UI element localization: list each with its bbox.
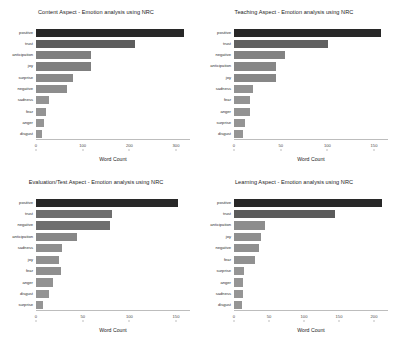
category-label: anger <box>23 281 33 285</box>
bar <box>36 199 178 207</box>
x-axis-line <box>234 310 388 311</box>
x-tick-label: 150 <box>371 143 378 148</box>
bar <box>36 244 62 252</box>
category-label: trust <box>25 212 33 216</box>
x-tick-mark <box>339 320 340 322</box>
bar <box>234 108 250 116</box>
category-label: negative <box>216 53 231 57</box>
bar <box>36 301 43 309</box>
bar <box>36 130 42 138</box>
plot-area: positivetrustnegativeanticipationjoysadn… <box>234 27 388 140</box>
x-tick-label: 50 <box>267 314 272 319</box>
category-label: joy <box>226 76 231 80</box>
x-tick-mark <box>234 149 235 151</box>
category-label: fear <box>26 269 33 273</box>
chart-title: Content Aspect - Emotion analysis using … <box>0 9 192 15</box>
x-tick-label: 0 <box>233 314 235 319</box>
bar <box>234 244 259 252</box>
bar-row: positive <box>234 197 388 208</box>
chart-title: Evaluation/Test Aspect - Emotion analysi… <box>0 179 192 185</box>
bar-series: positivetrustanticipationjoynegativefear… <box>234 197 388 311</box>
category-label: joy <box>28 64 33 68</box>
chart-title: Teaching Aspect - Emotion analysis using… <box>198 9 390 15</box>
bar <box>234 85 253 93</box>
x-tick-label: 150 <box>336 314 343 319</box>
bar-row: negative <box>234 50 388 61</box>
bar <box>36 278 53 286</box>
category-label: joy <box>226 235 231 239</box>
bar-row: sadness <box>36 95 190 106</box>
category-label: fear <box>224 258 231 262</box>
bar-row: surprise <box>36 72 190 83</box>
category-label: anticipation <box>12 235 33 239</box>
x-axis-line <box>234 139 388 140</box>
bar-row: positive <box>234 27 388 38</box>
bar <box>36 233 77 241</box>
bar <box>234 62 276 70</box>
x-tick-mark <box>82 320 83 322</box>
bar <box>36 85 67 93</box>
bar-row: surprise <box>234 117 388 128</box>
x-axis-label: Word Count <box>36 327 190 333</box>
bar <box>234 29 381 37</box>
category-label: surprise <box>18 76 33 80</box>
bar-row: anticipation <box>234 61 388 72</box>
bar <box>234 51 285 59</box>
category-label: surprise <box>18 303 33 307</box>
bar-series: positivetrustanticipationjoysurprisenega… <box>36 27 190 140</box>
category-label: positive <box>19 201 33 205</box>
bar-row: fear <box>36 265 190 276</box>
bar-row: anticipation <box>234 220 388 231</box>
bar-row: trust <box>234 38 388 49</box>
bar-row: joy <box>36 254 190 265</box>
bar-row: joy <box>234 231 388 242</box>
bar <box>36 29 184 37</box>
bar-row: trust <box>36 208 190 219</box>
bar-row: trust <box>36 38 190 49</box>
bar-row: negative <box>36 220 190 231</box>
x-tick-mark <box>269 320 270 322</box>
bar <box>234 256 255 264</box>
x-tick-mark <box>129 149 130 151</box>
x-tick-mark <box>36 320 37 322</box>
chart-title: Learning Aspect - Emotion analysis using… <box>198 179 390 185</box>
x-tick-mark <box>374 149 375 151</box>
x-tick-label: 0 <box>35 143 37 148</box>
chart-panel-content-aspect: Content Aspect - Emotion analysis using … <box>0 0 198 170</box>
plot-area: positivetrustanticipationjoysurprisenega… <box>36 27 190 140</box>
category-label: disgust <box>20 132 33 136</box>
x-tick-mark <box>176 320 177 322</box>
category-label: surprise <box>216 269 231 273</box>
bar-row: fear <box>234 254 388 265</box>
category-label: trust <box>25 42 33 46</box>
category-label: sadness <box>18 246 33 250</box>
bar-row: fear <box>36 106 190 117</box>
bar-row: anger <box>234 277 388 288</box>
bar <box>234 199 382 207</box>
x-tick-label: 0 <box>35 314 37 319</box>
bar-row: anticipation <box>36 231 190 242</box>
bar <box>36 96 49 104</box>
x-tick-mark <box>234 320 235 322</box>
x-tick-label: 200 <box>371 314 378 319</box>
category-label: anger <box>23 121 33 125</box>
bar <box>36 221 110 229</box>
bar-row: fear <box>234 95 388 106</box>
category-label: positive <box>217 31 231 35</box>
x-tick-label: 100 <box>79 143 86 148</box>
bar <box>234 210 335 218</box>
plot-area: positivetrustnegativeanticipationsadness… <box>36 197 190 311</box>
category-label: disgust <box>218 303 231 307</box>
x-tick-label: 300 <box>173 143 180 148</box>
category-label: anticipation <box>12 53 33 57</box>
category-label: anger <box>221 281 231 285</box>
bar-row: joy <box>36 61 190 72</box>
bar <box>36 119 44 127</box>
category-label: sadness <box>216 292 231 296</box>
bar-row: positive <box>36 27 190 38</box>
bar-row: anger <box>36 117 190 128</box>
x-tick-mark <box>176 149 177 151</box>
bar <box>234 40 328 48</box>
bar-series: positivetrustnegativeanticipationjoysadn… <box>234 27 388 140</box>
emotion-analysis-figure: Content Aspect - Emotion analysis using … <box>0 0 396 341</box>
